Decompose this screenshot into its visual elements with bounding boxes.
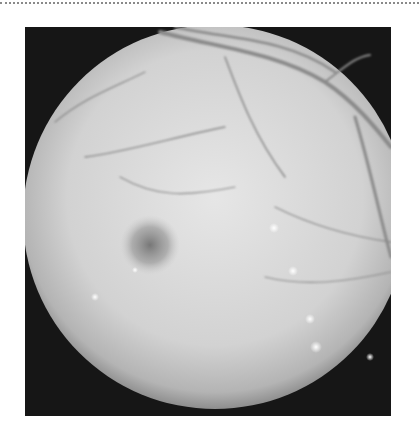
dotted-divider <box>0 2 419 4</box>
retina-disc <box>25 27 391 409</box>
fundus-image <box>25 27 391 416</box>
fundus-image-frame <box>25 27 391 416</box>
macula <box>120 215 180 275</box>
